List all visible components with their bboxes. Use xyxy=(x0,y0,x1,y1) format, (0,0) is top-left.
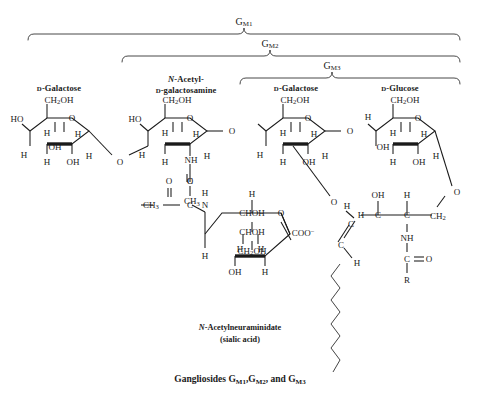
atom-h-ring4-e: H xyxy=(390,157,397,167)
bracket-label-gm2: GM2 xyxy=(262,38,279,51)
atom-h-sialic-f2: H xyxy=(258,244,265,254)
atom-oh-ring1-a: OH xyxy=(49,142,62,152)
ring-sialic-acid xyxy=(141,174,291,266)
atom-o-acetyl-ring2: O xyxy=(166,176,173,186)
atom-h-ring4-a: H xyxy=(390,128,397,138)
sialic-acid-name: N-Acetylneuraminidate xyxy=(199,323,281,332)
sugar-label-galnac-line2: D-galactosamine xyxy=(156,85,217,95)
atom-o-ring3: O xyxy=(305,113,312,123)
sugar-label-galactose-1: D-Galactose xyxy=(37,83,81,93)
atom-c-ceramide-3: C xyxy=(404,254,410,264)
atom-o-ring4: O xyxy=(415,113,422,123)
atom-coo-sialic: COO− xyxy=(292,228,315,239)
atom-ho-ring2: HO xyxy=(129,114,142,124)
atom-c-ceramide-1: C xyxy=(375,210,381,220)
atom-h-ceramide-1: H xyxy=(358,210,365,220)
atom-h-ring1-b: H xyxy=(21,150,28,160)
figure-caption: Gangliosides GM1,GM2, and GM3 xyxy=(174,374,305,386)
atom-h-ring3-b: H xyxy=(257,150,264,160)
bracket-label-gm1: GM1 xyxy=(236,16,253,29)
atom-choh-sialic-2: CHOH xyxy=(239,227,265,237)
atom-h-ceramide-2: H xyxy=(404,190,411,200)
atom-h-ring1-a: H xyxy=(44,128,51,138)
atom-h-ring1-e: H xyxy=(44,157,51,167)
atom-h-ring3-d: H xyxy=(322,151,329,161)
atom-h-ring2-b: H xyxy=(139,150,146,160)
atom-o-glycosidic-2: O xyxy=(229,126,236,136)
atom-nh-ceramide: NH xyxy=(401,233,414,243)
atom-o-sialic-acetyl: O xyxy=(187,176,194,186)
atom-ch2oh-ring2: CH2OH xyxy=(163,95,192,106)
atom-ho-ring1: HO xyxy=(11,114,24,124)
atom-oh-ring4-a: OH xyxy=(377,142,390,152)
atom-o-ceramide-link: O xyxy=(454,187,461,197)
atom-h-ring4-d: H xyxy=(433,151,440,161)
atom-ch2-ceramide: CH2 xyxy=(430,211,446,222)
sialic-acid-common-name: (sialic acid) xyxy=(220,335,260,344)
atom-c-ceramide-2: C xyxy=(404,210,410,220)
atom-h-ring2-d: H xyxy=(204,151,211,161)
atom-o-ring1: O xyxy=(69,113,76,123)
brace-gm2 xyxy=(122,50,460,62)
atom-oh-sialic-bottom: OH xyxy=(229,267,242,277)
atom-oh-ring3: OH xyxy=(303,157,316,167)
atom-h-ring3-e: H xyxy=(280,157,287,167)
atom-oh-ring1-b: OH xyxy=(67,157,80,167)
atom-h-alkene-2: H xyxy=(354,258,361,268)
atom-oh-ring4-b: OH xyxy=(413,157,426,167)
atom-h-sialic-left: H xyxy=(202,251,209,261)
atom-o-ceramide-carbonyl: O xyxy=(426,254,433,264)
lipid-tail-chain xyxy=(331,264,340,372)
atom-o-sialic-link: O xyxy=(331,197,338,207)
atom-ch2oh-ring3: CH2OH xyxy=(281,95,310,106)
atom-h-ring4-b: H xyxy=(365,112,372,122)
atom-o-ring2: O xyxy=(187,113,194,123)
atom-h-alkene-1: H xyxy=(344,201,351,211)
atom-c-sialic-acetyl: C xyxy=(187,200,193,210)
ring-galactose-1 xyxy=(22,104,112,155)
atom-h-ring4-c: H xyxy=(421,129,428,139)
ring-galnac-2 xyxy=(129,104,223,174)
atom-ch2oh-ring1: CH2OH xyxy=(45,95,74,106)
atom-h-ring2-e: H xyxy=(162,157,169,167)
sugar-label-galnac-line1: N-Acetyl- xyxy=(168,74,204,84)
atom-ch2oh-ring4: CH2OH xyxy=(391,95,420,106)
atom-h-sialic-n: H xyxy=(202,188,209,198)
atom-o-glycosidic-3: O xyxy=(347,126,354,136)
atom-r-group: R xyxy=(404,275,410,285)
atom-h-ring1-d: H xyxy=(86,151,93,161)
sugar-label-glucose: D-Glucose xyxy=(381,83,418,93)
atom-c-alkene-2: C xyxy=(338,240,344,250)
atom-nh-ring2: NH xyxy=(185,155,198,165)
atom-h-ring2-c: H xyxy=(193,129,200,139)
atom-o-sialic-ring: O xyxy=(278,208,285,218)
atom-h-ring3-a: H xyxy=(280,128,287,138)
atom-h-ring3-c: H xyxy=(311,129,318,139)
bracket-label-gm3: GM3 xyxy=(324,60,341,73)
atom-h-sialic-bottom: H xyxy=(262,267,269,277)
atom-h-sialic-f1: H xyxy=(237,244,244,254)
atom-o-glycosidic-1: O xyxy=(117,157,124,167)
atom-ch3-sialic: CH3 xyxy=(143,200,159,211)
ring-galactose-3 xyxy=(258,104,341,196)
atom-c-alkene-1: C xyxy=(348,219,354,229)
atom-n-sialic: N xyxy=(202,200,209,210)
atom-h-ring2-a: H xyxy=(162,128,169,138)
brace-gm1 xyxy=(28,28,460,40)
atom-h-ring1-c: H xyxy=(75,129,82,139)
atom-h-sialic-top: H xyxy=(249,189,256,199)
atom-oh-ceramide: OH xyxy=(372,190,385,200)
atom-choh-sialic-1: CHOH xyxy=(239,208,265,218)
sugar-label-galactose-2: D-Galactose xyxy=(274,83,318,93)
